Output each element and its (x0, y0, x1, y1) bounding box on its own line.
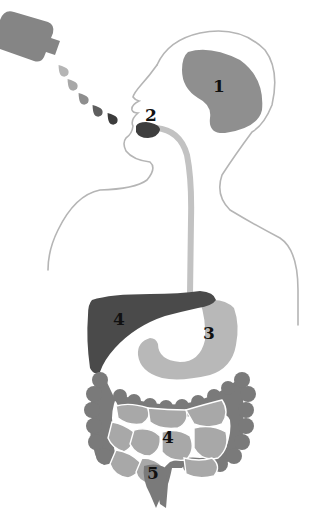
esophagus (156, 128, 191, 295)
label-stomach: 3 (203, 323, 215, 343)
label-liver: 4 (113, 309, 125, 329)
drop-icon (64, 76, 79, 92)
label-mouth: 2 (145, 105, 157, 125)
drop-icon (89, 102, 104, 118)
drop-icon (55, 62, 70, 78)
drops (55, 62, 119, 126)
digestive-diagram: 1 2 3 4 4 5 (0, 0, 314, 524)
bottle-icon (0, 11, 60, 61)
label-small-intestine: 4 (162, 427, 174, 447)
label-rectum: 5 (147, 463, 159, 483)
diagram-canvas: 1 2 3 4 4 5 (0, 0, 314, 524)
body-outline (48, 31, 298, 325)
label-brain: 1 (213, 76, 225, 96)
drop-icon (104, 110, 119, 126)
drop-icon (75, 90, 90, 106)
